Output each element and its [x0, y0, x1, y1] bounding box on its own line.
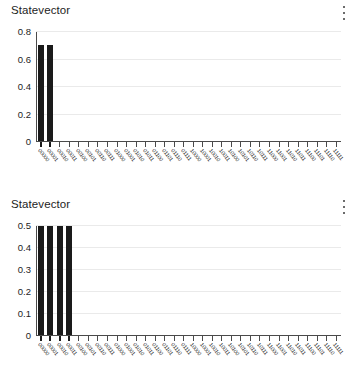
kebab-dot: [343, 200, 345, 202]
x-label-slot: 01000: [112, 341, 122, 385]
x-tick-label: 11111: [332, 342, 344, 356]
x-label-slot: 00100: [74, 147, 84, 191]
x-label-slot: 11000: [265, 147, 275, 191]
bar-slot: [217, 226, 227, 336]
x-label-slot: 10100: [227, 147, 237, 191]
bar-slot: [169, 226, 179, 336]
bar-slot: [46, 226, 56, 336]
bar: [47, 45, 53, 142]
bar-slot: [84, 32, 94, 142]
x-label-slot: 11001: [274, 341, 284, 385]
x-label-slot: 01101: [160, 147, 170, 191]
bar-slot: [65, 226, 75, 336]
bar-slot: [112, 226, 122, 336]
x-label-slot: 11101: [312, 341, 322, 385]
x-label-slot: 01001: [122, 341, 132, 385]
kebab-menu-icon[interactable]: [337, 4, 351, 22]
bar-slot: [131, 226, 141, 336]
x-label-slot: 00000: [36, 147, 46, 191]
bar: [66, 226, 72, 336]
bar-slot: [131, 32, 141, 142]
x-tick-label: 11111: [332, 148, 344, 162]
y-tick-label: 0.8: [18, 26, 31, 37]
bar-slot: [93, 32, 103, 142]
bar-slot: [322, 32, 332, 142]
x-label-slot: 01110: [169, 341, 179, 385]
x-label-slot: 11111: [331, 147, 341, 191]
bar-slot: [122, 226, 132, 336]
bar-slot: [208, 32, 218, 142]
bar-slot: [246, 32, 256, 142]
x-label-slot: 01100: [150, 147, 160, 191]
bar-slot: [312, 32, 322, 142]
bar-slot: [236, 32, 246, 142]
bar-slot: [227, 32, 237, 142]
x-label-slot: 10111: [255, 341, 265, 385]
bar: [38, 226, 44, 336]
x-label-slot: 01010: [131, 147, 141, 191]
bar-slot: [46, 32, 56, 142]
x-label-slot: 11111: [331, 341, 341, 385]
x-label-slot: 01100: [150, 341, 160, 385]
bar-chart: 00.20.40.60.8000000000100010000110010000…: [0, 22, 359, 194]
bar-slot: [103, 32, 113, 142]
kebab-menu-icon[interactable]: [337, 198, 351, 216]
x-label-slot: 00101: [84, 341, 94, 385]
x-label-slot: 11101: [312, 147, 322, 191]
x-label-slot: 10110: [246, 147, 256, 191]
x-label-slot: 01010: [131, 341, 141, 385]
x-label-slot: 00011: [65, 147, 75, 191]
bar-slot: [141, 32, 151, 142]
statevector-panel: Statevector00.10.20.30.40.50000000001000…: [0, 194, 359, 388]
x-label-slot: 01000: [112, 147, 122, 191]
x-label-slot: 00111: [103, 341, 113, 385]
bar-slot: [93, 226, 103, 336]
x-label-slot: 00101: [84, 147, 94, 191]
x-label-slot: 11110: [322, 147, 332, 191]
bar-slot: [160, 226, 170, 336]
kebab-dot: [343, 18, 345, 20]
bar-slot: [150, 32, 160, 142]
y-tick-label: 0.4: [18, 81, 31, 92]
plot-area: 00.10.20.30.40.5: [36, 226, 341, 336]
x-label-slot: 10010: [208, 147, 218, 191]
bar-slot: [236, 226, 246, 336]
bar-slot: [36, 226, 46, 336]
bar-slot: [141, 226, 151, 336]
bar-slot: [198, 226, 208, 336]
bar-slot: [189, 226, 199, 336]
y-tick-label: 0.2: [18, 286, 31, 297]
panel-title: Statevector: [11, 198, 70, 210]
x-label-slot: 01011: [141, 341, 151, 385]
bar-slot: [246, 226, 256, 336]
bar-slot: [284, 226, 294, 336]
bar-slot: [293, 32, 303, 142]
statevector-panel: Statevector00.20.40.60.80000000001000100…: [0, 0, 359, 194]
x-label-slot: 11110: [322, 341, 332, 385]
x-label-slot: 01111: [179, 341, 189, 385]
bar-slot: [217, 32, 227, 142]
y-tick-label: 0.2: [18, 108, 31, 119]
x-label-slot: 10111: [255, 147, 265, 191]
bar-slot: [112, 32, 122, 142]
panel-title: Statevector: [11, 4, 70, 16]
x-label-slot: 01101: [160, 341, 170, 385]
x-label-slot: 10101: [236, 147, 246, 191]
x-label-slot: 10100: [227, 341, 237, 385]
x-label-slot: 00110: [93, 341, 103, 385]
x-label-slot: 11011: [293, 147, 303, 191]
bar-slot: [160, 32, 170, 142]
x-label-slot: 11100: [303, 147, 313, 191]
y-tick-label: 0.1: [18, 308, 31, 319]
bar-slot: [103, 226, 113, 336]
x-label-slot: 00001: [46, 341, 56, 385]
bar-slot: [179, 226, 189, 336]
x-label-slot: 00000: [36, 341, 46, 385]
x-label-slot: 10000: [189, 147, 199, 191]
y-tick-label: 0.3: [18, 264, 31, 275]
bar-slot: [312, 226, 322, 336]
x-label-slot: 01111: [179, 147, 189, 191]
x-label-slot: 10001: [198, 341, 208, 385]
bar: [38, 45, 44, 142]
bar-slot: [284, 32, 294, 142]
